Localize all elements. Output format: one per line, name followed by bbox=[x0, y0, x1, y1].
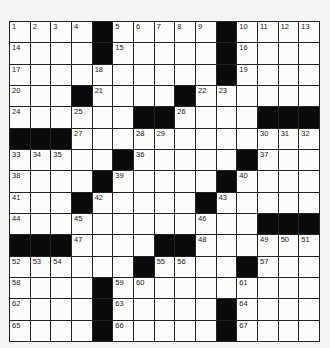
grid-cell[interactable] bbox=[51, 299, 71, 319]
grid-cell[interactable]: 29 bbox=[155, 129, 175, 149]
grid-cell[interactable] bbox=[279, 171, 299, 191]
grid-cell[interactable] bbox=[31, 299, 51, 319]
grid-cell[interactable] bbox=[217, 214, 237, 234]
grid-cell[interactable] bbox=[175, 150, 195, 170]
grid-cell[interactable]: 16 bbox=[237, 43, 257, 63]
grid-cell[interactable] bbox=[93, 214, 113, 234]
grid-cell[interactable]: 42 bbox=[93, 193, 113, 213]
grid-cell[interactable] bbox=[279, 150, 299, 170]
grid-cell[interactable] bbox=[258, 65, 278, 85]
grid-cell[interactable] bbox=[51, 278, 71, 298]
grid-cell[interactable] bbox=[237, 107, 257, 127]
grid-cell[interactable] bbox=[175, 129, 195, 149]
grid-cell[interactable] bbox=[258, 171, 278, 191]
grid-cell[interactable] bbox=[299, 43, 319, 63]
grid-cell[interactable]: 10 bbox=[237, 22, 257, 42]
grid-cell[interactable] bbox=[299, 171, 319, 191]
grid-cell[interactable]: 4 bbox=[72, 22, 92, 42]
grid-cell[interactable] bbox=[155, 86, 175, 106]
grid-cell[interactable]: 50 bbox=[279, 235, 299, 255]
grid-cell[interactable] bbox=[93, 235, 113, 255]
grid-cell[interactable] bbox=[113, 193, 133, 213]
grid-cell[interactable] bbox=[134, 86, 154, 106]
grid-cell[interactable] bbox=[72, 299, 92, 319]
grid-cell[interactable] bbox=[196, 321, 216, 341]
grid-cell[interactable] bbox=[155, 150, 175, 170]
grid-cell[interactable] bbox=[237, 129, 257, 149]
grid-cell[interactable]: 27 bbox=[72, 129, 92, 149]
grid-cell[interactable] bbox=[196, 107, 216, 127]
grid-cell[interactable] bbox=[93, 257, 113, 277]
grid-cell[interactable]: 12 bbox=[279, 22, 299, 42]
grid-cell[interactable] bbox=[134, 43, 154, 63]
grid-cell[interactable]: 60 bbox=[134, 278, 154, 298]
grid-cell[interactable] bbox=[51, 65, 71, 85]
grid-cell[interactable]: 55 bbox=[155, 257, 175, 277]
grid-cell[interactable] bbox=[155, 171, 175, 191]
grid-cell[interactable] bbox=[72, 150, 92, 170]
grid-cell[interactable] bbox=[217, 129, 237, 149]
grid-cell[interactable]: 45 bbox=[72, 214, 92, 234]
grid-cell[interactable] bbox=[279, 257, 299, 277]
grid-cell[interactable]: 26 bbox=[175, 107, 195, 127]
grid-cell[interactable] bbox=[196, 171, 216, 191]
grid-cell[interactable] bbox=[175, 299, 195, 319]
grid-cell[interactable]: 3 bbox=[51, 22, 71, 42]
grid-cell[interactable] bbox=[51, 107, 71, 127]
grid-cell[interactable] bbox=[155, 193, 175, 213]
grid-cell[interactable] bbox=[258, 193, 278, 213]
grid-cell[interactable]: 36 bbox=[134, 150, 154, 170]
grid-cell[interactable] bbox=[93, 150, 113, 170]
grid-cell[interactable]: 44 bbox=[10, 214, 30, 234]
grid-cell[interactable]: 40 bbox=[237, 171, 257, 191]
grid-cell[interactable] bbox=[196, 257, 216, 277]
grid-cell[interactable]: 62 bbox=[10, 299, 30, 319]
grid-cell[interactable]: 39 bbox=[113, 171, 133, 191]
grid-cell[interactable] bbox=[175, 193, 195, 213]
grid-cell[interactable] bbox=[237, 214, 257, 234]
grid-cell[interactable] bbox=[279, 321, 299, 341]
grid-cell[interactable] bbox=[175, 171, 195, 191]
grid-cell[interactable]: 59 bbox=[113, 278, 133, 298]
grid-cell[interactable] bbox=[31, 278, 51, 298]
grid-cell[interactable] bbox=[134, 321, 154, 341]
grid-cell[interactable] bbox=[155, 43, 175, 63]
grid-cell[interactable]: 54 bbox=[51, 257, 71, 277]
grid-cell[interactable]: 56 bbox=[175, 257, 195, 277]
grid-cell[interactable] bbox=[113, 257, 133, 277]
grid-cell[interactable] bbox=[72, 171, 92, 191]
grid-cell[interactable] bbox=[155, 299, 175, 319]
grid-cell[interactable] bbox=[113, 86, 133, 106]
grid-cell[interactable] bbox=[51, 214, 71, 234]
grid-cell[interactable] bbox=[72, 43, 92, 63]
grid-cell[interactable]: 30 bbox=[258, 129, 278, 149]
grid-cell[interactable]: 37 bbox=[258, 150, 278, 170]
grid-cell[interactable] bbox=[134, 299, 154, 319]
grid-cell[interactable] bbox=[93, 129, 113, 149]
grid-cell[interactable] bbox=[113, 214, 133, 234]
grid-cell[interactable]: 17 bbox=[10, 65, 30, 85]
grid-cell[interactable]: 6 bbox=[134, 22, 154, 42]
grid-cell[interactable] bbox=[299, 257, 319, 277]
grid-cell[interactable]: 46 bbox=[196, 214, 216, 234]
grid-cell[interactable] bbox=[237, 86, 257, 106]
grid-cell[interactable] bbox=[175, 43, 195, 63]
grid-cell[interactable]: 35 bbox=[51, 150, 71, 170]
grid-cell[interactable]: 9 bbox=[196, 22, 216, 42]
grid-cell[interactable]: 33 bbox=[10, 150, 30, 170]
grid-cell[interactable] bbox=[279, 65, 299, 85]
grid-cell[interactable] bbox=[155, 321, 175, 341]
grid-cell[interactable]: 13 bbox=[299, 22, 319, 42]
grid-cell[interactable] bbox=[175, 321, 195, 341]
grid-cell[interactable] bbox=[113, 107, 133, 127]
grid-cell[interactable] bbox=[299, 150, 319, 170]
grid-cell[interactable]: 32 bbox=[299, 129, 319, 149]
grid-cell[interactable]: 47 bbox=[72, 235, 92, 255]
grid-cell[interactable] bbox=[51, 43, 71, 63]
grid-cell[interactable] bbox=[134, 214, 154, 234]
grid-cell[interactable] bbox=[72, 65, 92, 85]
grid-cell[interactable]: 18 bbox=[93, 65, 113, 85]
grid-cell[interactable] bbox=[175, 214, 195, 234]
grid-cell[interactable] bbox=[113, 65, 133, 85]
grid-cell[interactable]: 22 bbox=[196, 86, 216, 106]
